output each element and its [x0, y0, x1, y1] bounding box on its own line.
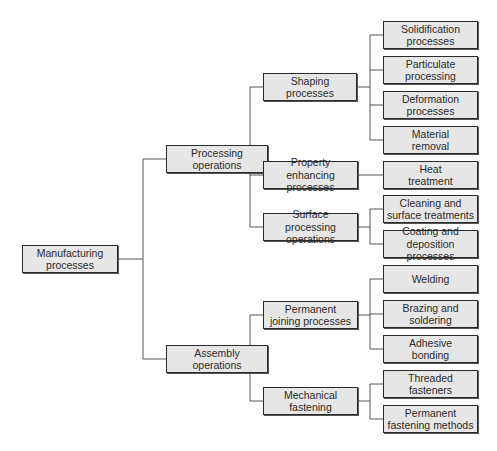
node-cleaning-surface-treatments: Cleaning and surface treatments — [383, 195, 478, 223]
node-shaping-processes: Shaping processes — [263, 73, 357, 101]
node-property-enhancing-processes: Property enhancing processes — [263, 161, 358, 189]
node-adhesive-bonding: Adhesive bonding — [383, 335, 478, 363]
node-material-removal: Material removal — [383, 126, 478, 154]
node-manufacturing-processes: Manufacturing processes — [22, 245, 118, 273]
node-permanent-joining-processes: Permanent joining processes — [263, 301, 358, 329]
node-assembly-operations: Assembly operations — [166, 345, 268, 373]
node-brazing-soldering: Brazing and soldering — [383, 300, 478, 328]
node-solidification-processes: Solidification processes — [383, 21, 478, 49]
node-particulate-processing: Particulate processing — [383, 56, 478, 84]
node-coating-deposition-processes: Coating and deposition processes — [383, 230, 478, 258]
node-mechanical-fastening: Mechanical fastening — [263, 387, 358, 415]
node-welding: Welding — [383, 265, 478, 293]
node-processing-operations: Processing operations — [166, 145, 268, 173]
node-permanent-fastening-methods: Permanent fastening methods — [383, 405, 478, 433]
node-surface-processing-operations: Surface processing operations — [263, 213, 358, 241]
node-deformation-processes: Deformation processes — [383, 91, 478, 119]
node-threaded-fasteners: Threaded fasteners — [383, 370, 478, 398]
node-heat-treatment: Heat treatment — [383, 161, 478, 189]
